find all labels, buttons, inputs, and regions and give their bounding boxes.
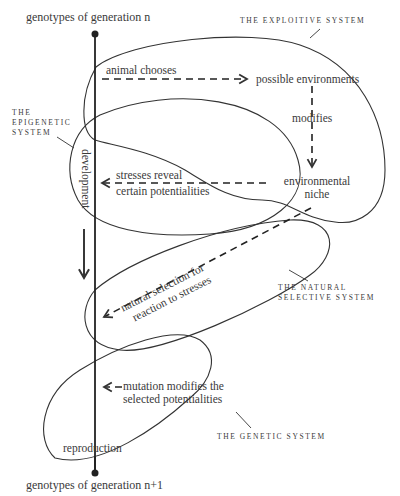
stresses-line2: certain potentialities [116,185,210,198]
top-node-label: genotypes of generation n [26,11,150,24]
epigenetic-system-label: THE EPIGENETIC SYSTEM [12,108,71,138]
modifies-label: modifies [292,112,332,125]
possible-environments-label: possible environments [256,73,359,86]
mutation-line1: mutation modifies the [123,380,224,393]
bottom-node-label: genotypes of generation n+1 [26,479,163,492]
mutation-line2: selected potentialities [123,393,224,406]
natural-leader [289,270,308,281]
natural-selective-system-label: THE NATURAL SELECTIVE SYSTEM [278,283,375,303]
epigenetic-system-loop [70,99,300,235]
top-node-dot [92,31,99,38]
development-label: development [79,149,92,208]
exploitive-system-label: THE EXPLOITIVE SYSTEM [240,16,365,26]
genetic-leader [236,412,251,428]
top-node-text: genotypes of generation n [26,10,150,24]
bottom-node-text: genotypes of generation n+1 [26,478,163,492]
epigenetic-label-line2: EPIGENETIC [12,118,71,128]
exploitive-leader [310,29,320,38]
natural-label-line1: THE NATURAL [278,283,375,293]
environmental-niche-label: environmental niche [272,175,362,201]
stresses-line1: stresses reveal [116,169,210,182]
stresses-label: stresses reveal certain potentialities [116,169,210,198]
niche-text: niche [272,188,362,201]
reproduction-label: reproduction [63,442,122,455]
animal-chooses-label: animal chooses [106,64,177,77]
environmental-text: environmental [272,175,362,188]
mutation-label: mutation modifies the selected potential… [123,380,224,406]
genetic-system-label: THE GENETIC SYSTEM [217,432,326,442]
epigenetic-label-line1: THE [12,108,71,118]
natural-label-line2: SELECTIVE SYSTEM [278,293,375,303]
epigenetic-label-line3: SYSTEM [12,128,71,138]
bottom-node-dot [92,470,99,477]
epigenetic-leader [57,137,74,148]
